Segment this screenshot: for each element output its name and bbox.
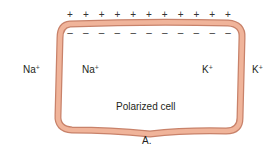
ion-k-inside: K+ [202,64,213,76]
minus-sign: – [98,28,106,38]
minus-sign: – [129,28,137,38]
plus-sign: + [208,10,216,20]
ion-na-inside: Na+ [82,64,99,76]
ion-k-outside: K+ [252,64,263,76]
plus-sign: + [161,10,169,20]
minus-sign: – [82,28,90,38]
minus-sign: – [66,28,74,38]
minus-sign: – [113,28,121,38]
plus-sign: + [66,10,74,20]
plus-sign: + [113,10,121,20]
cell-membrane [0,0,278,165]
minus-sign: – [145,28,153,38]
ion-na-outside: Na+ [23,64,40,76]
minus-sign: – [161,28,169,38]
plus-sign: + [224,10,232,20]
minus-sign: – [177,28,185,38]
polarized-cell-diagram: + + + + + + + + + + + – – – – – – – – – … [0,0,278,165]
minus-sign: – [224,28,232,38]
plus-sign: + [145,10,153,20]
cell-label: Polarized cell [116,101,175,113]
minus-sign: – [208,28,216,38]
plus-sign: + [82,10,90,20]
minus-sign: – [192,28,200,38]
plus-sign: + [192,10,200,20]
inside-negative-charges: – – – – – – – – – – – [66,28,232,38]
outside-positive-charges: + + + + + + + + + + + [66,10,232,20]
plus-sign: + [177,10,185,20]
plus-sign: + [129,10,137,20]
plus-sign: + [98,10,106,20]
panel-label: A. [142,135,151,147]
